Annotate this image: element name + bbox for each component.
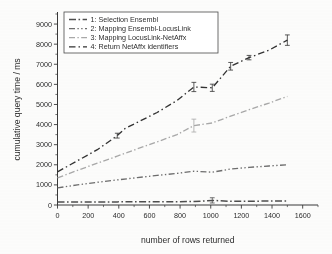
x-axis-title: number of rows returned: [141, 235, 235, 245]
legend-label-2: 2: Mapping Ensembl-LocusLink: [91, 24, 192, 33]
y-tick-label: 7000: [36, 60, 52, 69]
series-line-1: [58, 200, 288, 202]
x-tick-label: 800: [174, 211, 186, 220]
y-tick-label: 9000: [36, 20, 52, 29]
y-tick-label: 3000: [36, 140, 52, 149]
line-chart-svg: 0100020003000400050006000700080009000 02…: [0, 0, 332, 254]
x-tick-label: 0: [56, 211, 60, 220]
y-tick-label: 2000: [36, 160, 52, 169]
y-tick-label: 5000: [36, 100, 52, 109]
series-line-4: [58, 40, 288, 172]
y-axis-title: cumulative query time / ms: [12, 58, 22, 160]
legend-label-1: 1: Selection Ensembl: [91, 15, 159, 24]
x-tick-label: 1200: [233, 211, 249, 220]
x-tick-label: 1600: [295, 211, 311, 220]
data-series-group: [58, 40, 288, 202]
y-tick-label: 8000: [36, 40, 52, 49]
x-tick-label: 200: [82, 211, 94, 220]
y-tick-label: 6000: [36, 80, 52, 89]
x-tick-label: 400: [113, 211, 125, 220]
legend-label-3: 3: Mapping LocusLink-NetAffx: [91, 33, 187, 42]
legend-label-4: 4: Return NetAffx identifiers: [91, 42, 179, 51]
error-bar: [285, 35, 290, 45]
error-bar: [191, 82, 196, 91]
x-axis-ticks: 02004006008001000120014001600: [56, 205, 319, 220]
x-tick-label: 600: [143, 211, 155, 220]
x-tick-label: 1000: [203, 211, 219, 220]
y-tick-label: 4000: [36, 120, 52, 129]
y-tick-label: 0: [48, 201, 52, 210]
series-line-2: [58, 165, 288, 188]
x-tick-label: 1400: [264, 211, 280, 220]
y-tick-label: 1000: [36, 180, 52, 189]
chart-figure: 0100020003000400050006000700080009000 02…: [0, 0, 332, 254]
chart-legend: 1: Selection Ensembl2: Mapping Ensembl-L…: [64, 12, 218, 53]
error-bar: [228, 62, 233, 70]
series-line-3: [58, 96, 288, 177]
y-axis-ticks: 0100020003000400050006000700080009000: [36, 14, 58, 210]
